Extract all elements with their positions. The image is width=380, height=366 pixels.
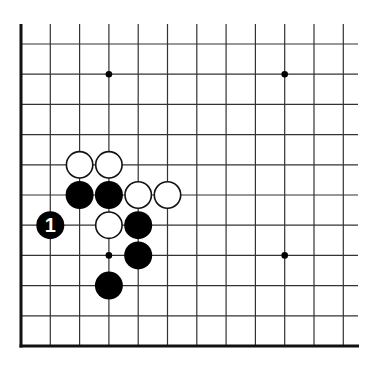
black-stone-1: 1 xyxy=(36,211,64,239)
go-board-diagram: 1 xyxy=(0,0,380,366)
white-stone-icon xyxy=(96,212,122,238)
black-stone-icon xyxy=(124,241,152,269)
black-stone xyxy=(66,181,94,209)
star-point-icon xyxy=(106,252,113,259)
go-board: 1 xyxy=(0,0,380,366)
white-stone xyxy=(96,152,122,178)
black-stone-icon xyxy=(95,272,123,300)
star-point-icon xyxy=(281,71,288,78)
black-stone-icon xyxy=(124,211,152,239)
white-stone-icon xyxy=(66,152,92,178)
white-stone-icon xyxy=(125,182,151,208)
black-stone xyxy=(124,241,152,269)
white-stone-icon xyxy=(96,152,122,178)
black-stone xyxy=(124,211,152,239)
star-point-icon xyxy=(281,252,288,259)
black-stone xyxy=(95,272,123,300)
black-stone xyxy=(95,181,123,209)
white-stone xyxy=(154,182,180,208)
white-stone xyxy=(96,212,122,238)
white-stone xyxy=(66,152,92,178)
white-stone-icon xyxy=(154,182,180,208)
white-stone xyxy=(125,182,151,208)
move-number-label: 1 xyxy=(45,214,56,236)
black-stone-icon xyxy=(66,181,94,209)
star-point-icon xyxy=(106,71,113,78)
black-stone-icon xyxy=(95,181,123,209)
